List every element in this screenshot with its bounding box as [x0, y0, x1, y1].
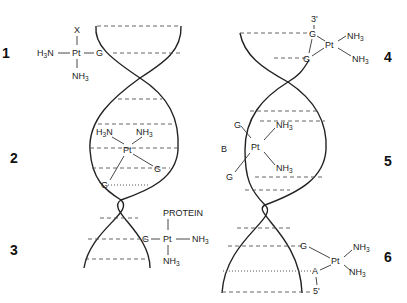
ligand-nh3: NH3: [136, 127, 153, 138]
guanine-base: G: [309, 29, 316, 39]
intervening-base: B: [221, 144, 227, 154]
ligand-nh3: NH3: [276, 163, 293, 174]
left-helix-strand-b: [84, 26, 181, 268]
adduct-number-3: 3: [10, 242, 18, 258]
platinum-atom: Pt: [72, 48, 81, 58]
left-helix: [84, 26, 181, 268]
guanine-base: G: [142, 234, 149, 244]
guanine-base: G: [96, 48, 103, 58]
guanine-base: G: [303, 54, 310, 64]
ligand-x: X: [74, 25, 80, 35]
adduct-1: 1 X H3N Pt G NH3: [2, 25, 103, 82]
ligand-nh3: NH3: [352, 54, 369, 65]
five-prime-end: 5': [313, 286, 320, 296]
adduct-3: 3 PROTEIN G Pt NH3 NH3: [10, 208, 209, 267]
adduct-number-4: 4: [384, 49, 392, 65]
ligand-nh3: NH3: [192, 234, 209, 245]
platinum-atom: Pt: [163, 234, 172, 244]
ligand-nh3: NH3: [353, 242, 370, 253]
adduct-2: 2 H3N NH3 Pt G G: [10, 127, 161, 190]
adduct-number-1: 1: [2, 45, 10, 61]
ligand-nh3: NH3: [276, 120, 293, 131]
adduct-number-5: 5: [384, 153, 392, 169]
platinum-atom: Pt: [325, 40, 334, 50]
ligand-nh3: NH3: [72, 71, 89, 82]
adduct-number-2: 2: [10, 150, 18, 166]
platinum-atom: Pt: [331, 256, 340, 266]
three-prime-end: 3': [311, 14, 318, 24]
right-helix-strand-b: [222, 60, 309, 293]
adduct-6: 6 G A Pt NH3 NH3 5': [300, 241, 392, 296]
guanine-base: G: [101, 180, 108, 190]
ligand-h3n: H3N: [96, 127, 113, 138]
guanine-base: G: [234, 120, 241, 130]
ligand-nh3: NH3: [163, 256, 180, 267]
ligand-h3n: H3N: [37, 48, 54, 59]
platinum-atom: Pt: [251, 142, 260, 152]
platinum-dna-adduct-diagram: 1 X H3N Pt G NH3 2 H3N NH3 Pt G G 3 PROT…: [0, 0, 407, 303]
guanine-base: G: [300, 241, 307, 251]
left-helix-strand-a: [96, 26, 178, 268]
platinum-atom: Pt: [123, 145, 132, 155]
guanine-base: G: [226, 172, 233, 182]
adduct-4: 4 3' G G Pt NH3 NH3: [303, 14, 392, 65]
ligand-protein: PROTEIN: [163, 208, 203, 218]
guanine-base: G: [154, 164, 161, 174]
ligand-nh3: NH3: [349, 267, 366, 278]
ligand-nh3: NH3: [347, 31, 364, 42]
right-helix: [222, 33, 326, 293]
diagram-svg: 1 X H3N Pt G NH3 2 H3N NH3 Pt G G 3 PROT…: [0, 0, 407, 303]
adenine-base: A: [312, 266, 318, 276]
adduct-number-6: 6: [384, 249, 392, 265]
